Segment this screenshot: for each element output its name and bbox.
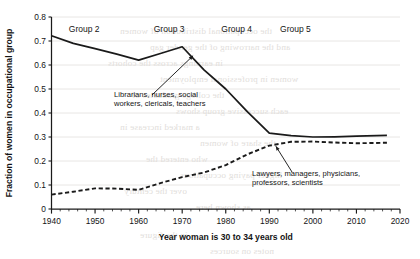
- y-axis-title: Fraction of women in occupational group: [4, 29, 14, 198]
- series-line-1: [52, 36, 387, 137]
- figure-container: the occupational distribution of womenan…: [0, 0, 420, 259]
- x-tick-label: 1990: [260, 216, 279, 226]
- y-tick-label: 0.4: [34, 108, 46, 118]
- x-tick-label: 1970: [173, 216, 192, 226]
- y-tick-label: 0.6: [34, 60, 46, 70]
- x-tick-label: 2010: [347, 216, 366, 226]
- occupational-group-line-chart: 194019501960197019801990200020102020 00.…: [0, 0, 420, 259]
- axis-titles: Year woman is 30 to 34 years oldFraction…: [4, 29, 293, 242]
- y-tick-label: 0.3: [34, 132, 46, 142]
- lower-annotation-line-1: Lawyers, managers, physicians,: [252, 169, 360, 178]
- group-labels: Group 2Group 3Group 4Group 5: [69, 24, 311, 34]
- x-tick-label: 2020: [391, 216, 410, 226]
- y-tick-label: 0.5: [34, 84, 46, 94]
- x-tick-label: 1980: [216, 216, 235, 226]
- group-label-2: Group 3: [154, 24, 185, 34]
- x-tick-label: 1940: [42, 216, 61, 226]
- y-tick-label: 0.7: [34, 36, 46, 46]
- upper-annotation-line-1: Librarians, nurses, social: [114, 90, 198, 99]
- x-tick-label: 1960: [129, 216, 148, 226]
- y-tick-label: 0.2: [34, 156, 46, 166]
- x-tick-label: 2000: [304, 216, 323, 226]
- group-label-3: Group 4: [221, 24, 252, 34]
- y-tick-label: 0.1: [34, 180, 46, 190]
- gridlines: [52, 17, 401, 185]
- annotations: Librarians, nurses, socialworkers, cleri…: [113, 56, 360, 187]
- upper-annotation-line-2: workers, clericals, teachers: [113, 99, 206, 108]
- group-label-4: Group 5: [280, 24, 311, 34]
- y-tick-label: 0.8: [34, 12, 46, 22]
- x-axis-title: Year woman is 30 to 34 years old: [159, 232, 293, 242]
- x-tick-label: 1950: [86, 216, 105, 226]
- y-axis-ticks: 00.10.20.30.40.50.60.70.8: [34, 12, 51, 214]
- group-label-1: Group 2: [69, 24, 100, 34]
- x-axis-ticks: 194019501960197019801990200020102020: [42, 209, 409, 226]
- lower-annotation-line-2: professors, scientists: [252, 178, 323, 187]
- y-tick-label: 0: [41, 204, 46, 214]
